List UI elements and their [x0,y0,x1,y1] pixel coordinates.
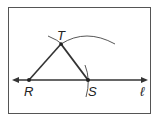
geometry-diagram: T R S ℓ [0,0,159,120]
arrowhead-right-icon [141,77,148,83]
point-r [27,78,31,82]
segment-rt [29,44,61,80]
point-s [86,78,90,82]
label-line-l: ℓ [140,84,145,99]
label-r: R [24,84,33,99]
segment-ts [61,44,88,80]
construction-arc-large [61,36,115,44]
arrowhead-left-icon [12,77,19,83]
label-s: S [88,84,97,99]
label-t: T [57,28,66,43]
